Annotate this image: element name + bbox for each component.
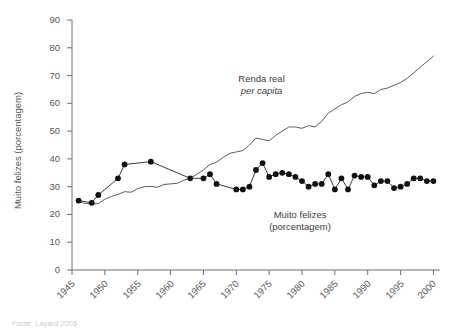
data-point — [332, 187, 338, 193]
data-point — [122, 162, 128, 168]
data-point — [352, 173, 358, 179]
annotation-renda-line1: Renda real — [238, 73, 284, 85]
annotation-muito-felizes: Muito felizes(porcentagem) — [269, 209, 331, 233]
data-point — [293, 174, 299, 180]
data-point — [345, 187, 351, 193]
y-tick-label-40: 40 — [32, 153, 60, 164]
data-point — [253, 167, 259, 173]
data-point — [319, 181, 325, 187]
y-tick-label-90: 90 — [32, 14, 60, 25]
data-point — [358, 174, 364, 180]
data-point — [266, 174, 272, 180]
data-point — [115, 175, 121, 181]
y-tick-label-30: 30 — [32, 181, 60, 192]
data-point — [76, 198, 82, 204]
annotation-renda-line2: per capita — [238, 85, 284, 97]
data-point — [260, 160, 266, 166]
y-tick-label-60: 60 — [32, 97, 60, 108]
data-point — [299, 178, 305, 184]
source-note: Fonte: Layard 2005 — [12, 319, 77, 328]
data-point — [286, 171, 292, 177]
y-tick-label-10: 10 — [32, 236, 60, 247]
data-point — [404, 181, 410, 187]
y-tick-label-0: 0 — [32, 264, 60, 275]
data-point — [148, 159, 154, 165]
data-point — [365, 174, 371, 180]
data-point — [312, 181, 318, 187]
data-point — [207, 171, 213, 177]
data-point — [201, 175, 207, 181]
data-point — [385, 178, 391, 184]
data-point — [371, 182, 377, 188]
data-point — [247, 184, 253, 190]
data-point — [89, 200, 95, 206]
data-point — [95, 192, 101, 198]
annotation-felizes-line2: (porcentagem) — [269, 221, 331, 233]
data-point — [424, 178, 430, 184]
data-point — [214, 181, 220, 187]
annotation-renda-real: Renda realper capita — [238, 73, 284, 97]
data-point — [378, 178, 384, 184]
y-tick-label-20: 20 — [32, 208, 60, 219]
data-point — [339, 175, 345, 181]
annotation-felizes-line1: Muito felizes — [269, 209, 331, 221]
y-tick-label-80: 80 — [32, 42, 60, 53]
data-point — [391, 185, 397, 191]
data-point — [411, 175, 417, 181]
data-point — [240, 187, 246, 193]
y-tick-label-70: 70 — [32, 70, 60, 81]
data-point — [398, 184, 404, 190]
y-tick-label-50: 50 — [32, 125, 60, 136]
y-axis-label: Muito felizes (porcentagem) — [12, 51, 23, 251]
axis-lines — [72, 20, 440, 270]
data-point — [233, 187, 239, 193]
data-point — [417, 175, 423, 181]
data-point — [431, 178, 437, 184]
data-point — [306, 184, 312, 190]
data-point — [279, 170, 285, 176]
data-point — [187, 175, 193, 181]
data-point — [273, 171, 279, 177]
data-point — [325, 171, 331, 177]
chart-figure: Muito felizes (porcentagem) Renda realpe… — [0, 0, 454, 329]
